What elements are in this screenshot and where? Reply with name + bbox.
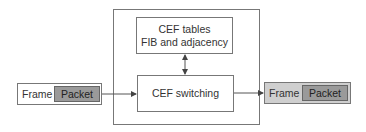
connector-arrows xyxy=(0,0,366,132)
